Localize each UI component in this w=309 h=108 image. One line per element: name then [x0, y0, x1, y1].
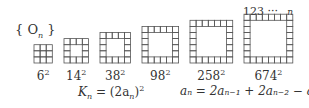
square-2: [64, 39, 88, 63]
square-1: [34, 45, 52, 63]
square-label-2: 142: [56, 68, 96, 83]
k-rhs: = (2a: [92, 85, 129, 99]
k-exp: 2: [139, 84, 144, 93]
formula-a: aₙ = 2aₙ₋₁ + 2aₙ₋₂ − aₙ₋₃: [180, 84, 309, 98]
square-label-3: 382: [95, 68, 135, 83]
square-5: [190, 20, 233, 63]
formula-k: Kn = (2an)2: [78, 84, 144, 101]
k-symbol: K: [78, 85, 87, 99]
square-3: [100, 33, 131, 64]
square-label-5: 2582: [191, 68, 231, 83]
square-6: [244, 14, 293, 63]
square-grid-diagram: [0, 0, 309, 70]
square-4: [142, 26, 179, 63]
square-label-4: 982: [140, 68, 180, 83]
square-label-6: 6742: [248, 68, 288, 83]
